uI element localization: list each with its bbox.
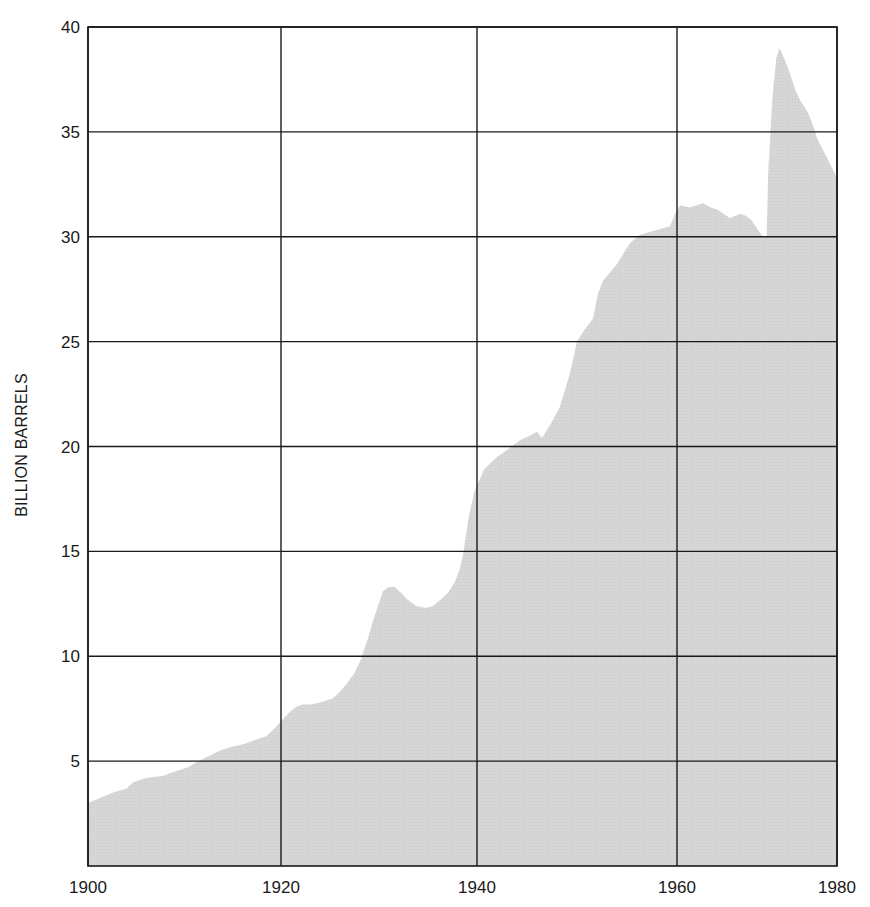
x-tick-label: 1960	[658, 878, 696, 897]
y-tick-label: 40	[61, 18, 80, 37]
area-fill	[88, 48, 837, 866]
y-tick-label: 35	[61, 123, 80, 142]
area-series	[88, 48, 837, 866]
x-tick-label: 1900	[69, 878, 107, 897]
x-tick-label: 1920	[262, 878, 300, 897]
x-tick-label: 1940	[458, 878, 496, 897]
y-tick-label: 20	[61, 438, 80, 457]
y-axis-ticks: 510152025303540	[61, 18, 80, 771]
x-tick-label: 1980	[818, 878, 856, 897]
x-axis-ticks: 19001920194019601980	[69, 878, 856, 897]
chart: 510152025303540 19001920194019601980 BIL…	[0, 0, 870, 907]
y-tick-label: 15	[61, 542, 80, 561]
chart-canvas: 510152025303540 19001920194019601980	[0, 0, 870, 907]
y-axis-label: BILLION BARRELS	[13, 373, 31, 517]
y-tick-label: 30	[61, 228, 80, 247]
y-tick-label: 25	[61, 333, 80, 352]
y-tick-label: 10	[61, 647, 80, 666]
y-tick-label: 5	[71, 752, 80, 771]
